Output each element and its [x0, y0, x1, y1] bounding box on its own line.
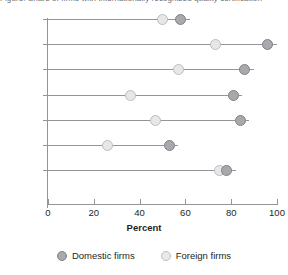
data-point-domestic [228, 90, 239, 101]
legend-label: Domestic firms [72, 250, 135, 261]
row-rule [48, 19, 190, 20]
data-point-foreign [173, 64, 184, 75]
data-point-domestic [221, 165, 232, 176]
x-tick [140, 199, 141, 205]
category-row: Portugal [0, 115, 288, 139]
legend-item-foreign[interactable]: Foreign firms [161, 250, 231, 261]
x-tick-label: 80 [226, 207, 237, 218]
row-rule [48, 69, 254, 70]
x-tick [94, 199, 95, 205]
data-point-domestic [175, 14, 186, 25]
x-tick-label: 20 [89, 207, 100, 218]
chart-legend: Domestic firmsForeign firms [0, 250, 288, 261]
category-row: Poland [0, 90, 288, 114]
x-tick-label: 40 [134, 207, 145, 218]
chart-title-clipped: Figure: Share of firms with internationa… [0, 0, 288, 6]
legend-label: Foreign firms [176, 250, 231, 261]
x-axis-line [48, 204, 277, 205]
row-rule [48, 145, 178, 146]
x-tick-label: 60 [180, 207, 191, 218]
data-point-foreign [157, 14, 168, 25]
category-row: Romania [0, 140, 288, 164]
data-point-domestic [235, 115, 246, 126]
data-point-foreign [102, 140, 113, 151]
category-row: Germany [0, 64, 288, 88]
row-rule [48, 44, 277, 45]
legend-item-domestic[interactable]: Domestic firms [57, 250, 135, 261]
data-point-foreign [210, 39, 221, 50]
chart-container: Figure: Share of firms with internationa… [0, 0, 288, 275]
data-point-domestic [164, 140, 175, 151]
plot-area: BulgariaChinaGermanyPolandPortugalRomani… [0, 14, 288, 204]
data-point-domestic [239, 64, 250, 75]
x-tick [48, 199, 49, 205]
data-point-foreign [150, 115, 161, 126]
row-rule [48, 95, 242, 96]
x-axis-title: Percent [0, 222, 288, 233]
category-row: Bulgaria [0, 14, 288, 38]
legend-swatch-foreign-icon [161, 251, 171, 261]
x-tick [185, 199, 186, 205]
category-row: China [0, 39, 288, 63]
data-point-domestic [262, 39, 273, 50]
data-point-foreign [125, 90, 136, 101]
x-tick [231, 199, 232, 205]
category-row: Turkey [0, 165, 288, 189]
x-tick [277, 199, 278, 205]
x-tick-label: 100 [269, 207, 285, 218]
row-rule [48, 120, 249, 121]
x-tick-label: 0 [45, 207, 50, 218]
legend-swatch-domestic-icon [57, 251, 67, 261]
row-rule [48, 170, 236, 171]
